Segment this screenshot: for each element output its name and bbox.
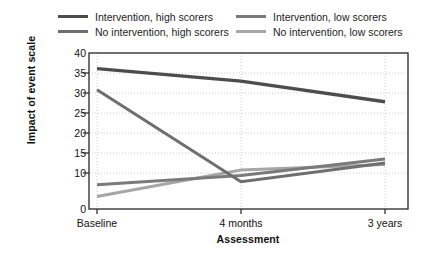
data-series (97, 69, 385, 197)
chart-figure: Intervention, high scorers Intervention,… (0, 0, 440, 253)
x-tick-label-baseline: Baseline (77, 217, 117, 229)
x-tick-label-3-years: 3 years (368, 217, 402, 229)
x-axis-title: Assessment (88, 233, 408, 245)
grid-lines (89, 73, 408, 173)
series-line-intervention-high (97, 69, 385, 102)
x-axis-ticks (97, 209, 385, 214)
plot-area (0, 0, 440, 253)
category-gridlines (97, 53, 385, 209)
x-tick-label-4-months: 4 months (219, 217, 262, 229)
y-axis-ticks (83, 73, 89, 173)
plot-frame (89, 53, 408, 209)
